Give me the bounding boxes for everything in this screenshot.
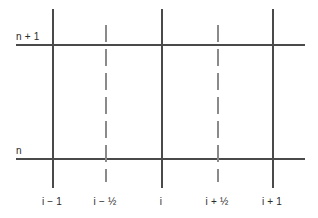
vertical-line-i-plus-1	[272, 9, 274, 188]
row-label-n: n	[16, 146, 22, 156]
column-label-i-plus-half: i + ½	[206, 197, 229, 207]
vertical-line-i-minus-1	[52, 9, 54, 188]
row-label-n-plus-1: n + 1	[16, 32, 40, 42]
column-label-i-minus-1: i − 1	[42, 197, 62, 207]
column-label-i-plus-1: i + 1	[262, 197, 282, 207]
grid-diagram-figure: n + 1 n i − 1 i − ½ i i + ½ i + 1	[0, 0, 318, 218]
vertical-line-i-minus-half	[105, 25, 107, 182]
vertical-line-i	[161, 9, 163, 188]
vertical-line-i-plus-half	[217, 25, 219, 182]
column-label-i: i	[160, 197, 162, 207]
column-label-i-minus-half: i − ½	[94, 197, 117, 207]
